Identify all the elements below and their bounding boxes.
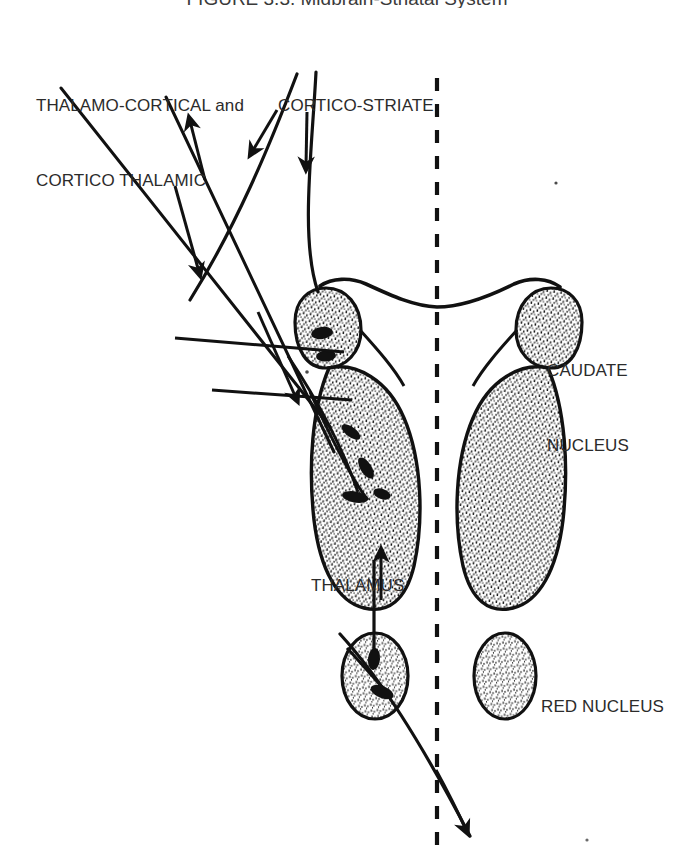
- label-caudate-nucleus: CAUDATE NUCLEUS: [547, 308, 629, 508]
- label-red-nucleus: RED NUCLEUS: [541, 644, 664, 769]
- caudate-nucleus-left: [295, 288, 361, 368]
- red-nucleus-right: [474, 633, 536, 719]
- label-thalamus: THALAMUS: [311, 523, 404, 648]
- label-cortico-striate: CORTICO-STRIATE: [278, 43, 434, 168]
- label-thalamus-line1: THALAMUS: [311, 573, 404, 598]
- label-caudate-nucleus-line1: CAUDATE: [547, 358, 629, 383]
- label-cortico-striate-line1: CORTICO-STRIATE: [278, 93, 434, 118]
- label-red-nucleus-line1: RED NUCLEUS: [541, 694, 664, 719]
- label-thalamo-cortical: THALAMO-CORTICAL and CORTICO THALAMIC: [36, 43, 244, 243]
- label-thalamo-cortical-line2: CORTICO THALAMIC: [36, 168, 244, 193]
- label-caudate-nucleus-line2: NUCLEUS: [547, 433, 629, 458]
- label-thalamo-cortical-line1: THALAMO-CORTICAL and: [36, 93, 244, 118]
- figure-container: FIGURE 3.3. Midbrain-Striatal System: [0, 0, 694, 865]
